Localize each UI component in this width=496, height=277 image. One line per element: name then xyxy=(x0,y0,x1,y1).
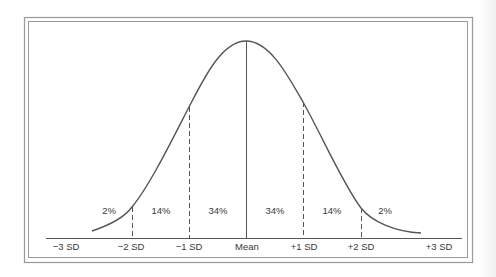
axis-label-plus1sd: +1 SD xyxy=(291,241,318,252)
axis-label-mean: Mean xyxy=(235,241,259,252)
percent-label-plus2-plus3: 2% xyxy=(378,205,392,216)
percent-label-mean-plus1: 34% xyxy=(265,205,285,216)
normal-distribution-figure: 2% 14% 34% 34% 14% 2% −3 SD −2 SD −1 SD … xyxy=(0,0,496,277)
percent-label-plus1-plus2: 14% xyxy=(322,205,342,216)
percent-label-minus1-mean: 34% xyxy=(208,205,228,216)
bell-curve xyxy=(92,41,421,233)
axis-label-minus1sd: −1 SD xyxy=(176,241,203,252)
axis-label-plus2sd: +2 SD xyxy=(348,241,375,252)
axis-label-minus2sd: −2 SD xyxy=(118,241,145,252)
inner-frame xyxy=(29,22,468,258)
axis-label-minus3sd: −3 SD xyxy=(53,241,80,252)
percent-label-minus2-minus1: 14% xyxy=(151,205,171,216)
outer-frame xyxy=(25,18,473,263)
percent-label-minus3-minus2: 2% xyxy=(102,205,116,216)
axis-label-plus3sd: +3 SD xyxy=(426,241,453,252)
